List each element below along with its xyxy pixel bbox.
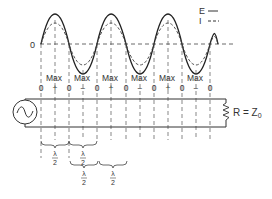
- svg-text:0: 0: [180, 83, 185, 93]
- half-wave-labels-bottom: λ 2 λ 2: [81, 170, 116, 186]
- resistor-icon: [223, 103, 229, 120]
- svg-text:Max: Max: [102, 73, 119, 83]
- load-label: R = Z0: [233, 107, 262, 119]
- svg-text:0: 0: [208, 83, 213, 93]
- svg-text:−: −: [138, 83, 143, 93]
- zero-axis-label: 0: [30, 40, 35, 50]
- svg-text:Max: Max: [74, 73, 91, 83]
- svg-text:0: 0: [152, 83, 157, 93]
- svg-text:λ: λ: [82, 170, 86, 177]
- voltage-wave-E: [41, 14, 218, 74]
- svg-text:0: 0: [39, 83, 44, 93]
- svg-text:λ: λ: [81, 150, 85, 157]
- standing-wave-diagram: 0 E I Max Max Max Max Max Max 0 + 0 −: [0, 0, 272, 199]
- svg-text:Max: Max: [46, 73, 63, 83]
- svg-text:λ: λ: [53, 150, 57, 157]
- svg-text:+: +: [109, 83, 114, 93]
- node-labels: 0 + 0 − 0 + 0 − 0 + 0 − 0: [39, 83, 213, 93]
- legend-I-label: I: [199, 16, 202, 26]
- svg-text:2: 2: [111, 179, 115, 186]
- legend-E-label: E: [199, 6, 205, 16]
- svg-text:2: 2: [53, 159, 57, 166]
- svg-text:+: +: [166, 83, 171, 93]
- svg-text:0: 0: [124, 83, 129, 93]
- svg-text:0: 0: [95, 83, 100, 93]
- svg-text:−: −: [194, 83, 199, 93]
- svg-text:−: −: [81, 83, 86, 93]
- max-labels: Max Max Max Max Max Max: [46, 73, 204, 83]
- svg-text:Max: Max: [187, 73, 204, 83]
- ac-source-icon: [13, 100, 37, 124]
- svg-text:2: 2: [82, 179, 86, 186]
- svg-text:+: +: [53, 83, 58, 93]
- half-wave-braces-bottom: [70, 161, 127, 168]
- svg-text:Max: Max: [131, 73, 148, 83]
- svg-text:0: 0: [67, 83, 72, 93]
- svg-text:Max: Max: [159, 73, 176, 83]
- svg-text:λ: λ: [111, 170, 115, 177]
